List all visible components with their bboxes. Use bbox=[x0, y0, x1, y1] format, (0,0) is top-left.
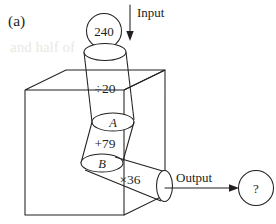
function-machine-diagram: and half of (a) Input 240 bbox=[0, 0, 276, 224]
output-label: Output bbox=[176, 170, 213, 185]
output-arrow bbox=[165, 184, 239, 191]
page-bleed-text: and half of bbox=[10, 39, 75, 55]
node-b: B bbox=[81, 154, 123, 172]
node-b-label: B bbox=[98, 157, 106, 171]
panel-label: (a) bbox=[8, 12, 25, 30]
operation-2-label: +79 bbox=[94, 136, 115, 151]
figure-container: and half of (a) Input 240 bbox=[0, 0, 276, 224]
input-label: Input bbox=[137, 5, 165, 20]
output-value-text: ? bbox=[253, 181, 259, 196]
input-value-text: 240 bbox=[94, 24, 114, 39]
output-value-node: ? bbox=[239, 171, 274, 206]
operation-3-label: ×36 bbox=[119, 172, 140, 187]
node-a: A bbox=[92, 113, 134, 131]
operation-1-label: ÷20 bbox=[95, 81, 116, 96]
node-a-label: A bbox=[108, 116, 117, 130]
input-arrow bbox=[126, 5, 133, 41]
